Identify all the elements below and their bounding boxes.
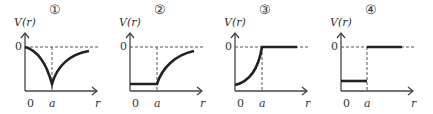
potential-curve: [130, 51, 194, 84]
y-tick-zero: 0: [331, 40, 338, 53]
y-tick-zero: 0: [225, 40, 232, 53]
x-tick-a: a: [364, 97, 371, 110]
x-tick-zero: 0: [27, 97, 34, 110]
x-axis-label: r: [305, 97, 310, 110]
graph-panel-4: ④ V(r) 0 0 a r: [316, 0, 424, 114]
x-axis-label: r: [200, 97, 205, 110]
panel-number: ④: [365, 2, 377, 17]
graph-panel-3: ③ V(r) 0 0 a r: [210, 0, 318, 114]
x-tick-zero: 0: [132, 97, 139, 110]
graph-panel-2: ② V(r) 0 0 a r: [105, 0, 213, 114]
panel-number: ①: [49, 2, 61, 17]
y-axis-label: V(r): [224, 16, 246, 29]
x-axis-label: r: [95, 97, 100, 110]
x-tick-a: a: [49, 97, 56, 110]
potential-curve: [25, 47, 89, 84]
y-tick-zero: 0: [120, 40, 127, 53]
x-tick-zero: 0: [237, 97, 244, 110]
graph-panel-1: ① V(r) 0 0 a r: [0, 0, 108, 114]
y-axis-label: V(r): [119, 16, 141, 29]
panel-number: ③: [259, 2, 271, 17]
potential-curve: [235, 47, 297, 85]
y-axis-label: V(r): [14, 16, 36, 29]
x-tick-zero: 0: [343, 97, 350, 110]
x-tick-a: a: [259, 97, 266, 110]
panel-number: ②: [154, 2, 166, 17]
y-tick-zero: 0: [15, 40, 22, 53]
y-axis-label: V(r): [330, 16, 352, 29]
x-tick-a: a: [154, 97, 161, 110]
x-axis-label: r: [411, 97, 416, 110]
